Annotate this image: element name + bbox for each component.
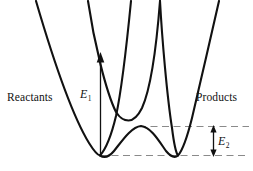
label-products: Products [196, 92, 237, 104]
potential-energy-diagram: Reactants Products E1 E2 [0, 0, 253, 171]
arrow-e1 [97, 52, 105, 155]
e1-symbol: E [80, 87, 87, 101]
curve-product-diabatic [160, 1, 219, 156]
curve-reactant-diabatic [36, 1, 131, 156]
e2-symbol: E [218, 134, 225, 148]
label-reaction-energy-e2: E2 [218, 135, 229, 147]
diagram-canvas [0, 0, 253, 171]
arrow-e2 [210, 125, 216, 157]
label-reactants: Reactants [7, 92, 53, 104]
e1-subscript: 1 [88, 94, 92, 103]
label-activation-energy-e1: E1 [80, 88, 91, 100]
e2-subscript: 2 [226, 141, 230, 150]
